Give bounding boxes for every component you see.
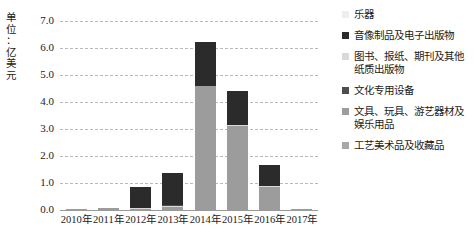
legend-swatch-icon bbox=[342, 108, 349, 115]
bar-2014年[interactable] bbox=[195, 21, 216, 210]
legend-item-2[interactable]: 音像制品及电子出版物 bbox=[342, 29, 472, 42]
bar-2010年[interactable] bbox=[66, 21, 87, 210]
legend-label: 乐器 bbox=[354, 8, 374, 21]
y-axis-unit-char: 亿 bbox=[3, 47, 18, 59]
bar-segment[interactable] bbox=[259, 187, 280, 210]
bar-2012年[interactable] bbox=[130, 21, 151, 210]
y-axis-unit-char: 元 bbox=[3, 70, 18, 82]
bar-segment[interactable] bbox=[162, 173, 183, 205]
legend-item-3[interactable]: 图书、报纸、期刊及其他纸质出版物 bbox=[342, 50, 472, 76]
legend-swatch-icon bbox=[342, 32, 349, 39]
bar-segment[interactable] bbox=[162, 206, 183, 208]
chart-page: 单位：亿美元 0.01.02.03.04.05.06.07.0 2010年201… bbox=[0, 0, 474, 248]
bar-segment[interactable] bbox=[227, 126, 248, 210]
legend-label: 文化专用设备 bbox=[354, 84, 414, 97]
bar-segment[interactable] bbox=[162, 207, 183, 210]
y-axis-tick-label: 4.0 bbox=[24, 96, 54, 107]
bar-segment[interactable] bbox=[195, 86, 216, 210]
y-axis-tick-label: 3.0 bbox=[24, 123, 54, 134]
bar-2013年[interactable] bbox=[162, 21, 183, 210]
legend-label: 文具、玩具、游艺器材及娱乐用品 bbox=[354, 105, 472, 131]
x-axis-tick-label: 2017年 bbox=[278, 214, 326, 226]
bar-segment[interactable] bbox=[291, 209, 312, 210]
legend-label: 音像制品及电子出版物 bbox=[354, 29, 454, 42]
legend-swatch-icon bbox=[342, 11, 349, 18]
legend-swatch-icon bbox=[342, 142, 349, 149]
y-axis-tick-label: 2.0 bbox=[24, 150, 54, 161]
bar-2011年[interactable] bbox=[98, 21, 119, 210]
bar-2016年[interactable] bbox=[259, 21, 280, 210]
legend-swatch-icon bbox=[342, 53, 349, 60]
bar-segment[interactable] bbox=[195, 42, 216, 86]
x-axis-line bbox=[60, 210, 318, 211]
y-axis-unit-label: 单位：亿美元 bbox=[3, 12, 18, 81]
legend-label: 工艺美术品及收藏品 bbox=[354, 139, 444, 152]
legend-item-6[interactable]: 工艺美术品及收藏品 bbox=[342, 139, 472, 152]
y-axis-unit-char: 美 bbox=[3, 58, 18, 70]
bar-segment[interactable] bbox=[98, 208, 119, 210]
legend-item-5[interactable]: 文具、玩具、游艺器材及娱乐用品 bbox=[342, 105, 472, 131]
y-axis-unit-char: ： bbox=[3, 35, 18, 47]
bar-segment[interactable] bbox=[66, 209, 87, 210]
y-axis-tick-label: 6.0 bbox=[24, 42, 54, 53]
bar-segment[interactable] bbox=[130, 187, 151, 208]
bar-segment[interactable] bbox=[130, 209, 151, 210]
plot-area bbox=[60, 21, 318, 210]
bar-segment[interactable] bbox=[130, 208, 151, 209]
bar-segment[interactable] bbox=[259, 165, 280, 185]
legend-item-4[interactable]: 文化专用设备 bbox=[342, 84, 472, 97]
y-axis-tick-label: 0.0 bbox=[24, 204, 54, 215]
bar-2017年[interactable] bbox=[291, 21, 312, 210]
y-axis-tick-label: 1.0 bbox=[24, 177, 54, 188]
legend-swatch-icon bbox=[342, 87, 349, 94]
bar-segment[interactable] bbox=[227, 91, 248, 126]
legend-label: 图书、报纸、期刊及其他纸质出版物 bbox=[354, 50, 472, 76]
bar-2015年[interactable] bbox=[227, 21, 248, 210]
bar-segment[interactable] bbox=[259, 186, 280, 187]
legend-item-1[interactable]: 乐器 bbox=[342, 8, 472, 21]
y-axis-tick-label: 5.0 bbox=[24, 69, 54, 80]
chart-legend: 乐器音像制品及电子出版物图书、报纸、期刊及其他纸质出版物文化专用设备文具、玩具、… bbox=[342, 8, 472, 160]
y-axis-unit-char: 单 bbox=[3, 12, 18, 24]
y-axis-unit-char: 位 bbox=[3, 24, 18, 36]
y-axis-tick-label: 7.0 bbox=[24, 15, 54, 26]
